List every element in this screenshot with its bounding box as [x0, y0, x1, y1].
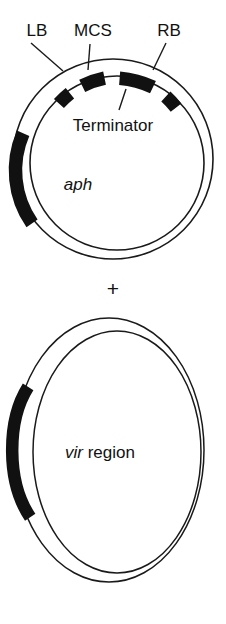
- leader-line-lb: [31, 43, 63, 71]
- segment-aph: [15, 133, 32, 223]
- label-mcs: MCS: [74, 21, 112, 40]
- segment-mcs: [82, 78, 104, 86]
- label-vir-italic: vir: [65, 443, 84, 462]
- label-vir-region: vir region: [65, 443, 135, 462]
- segment-rb: [166, 97, 176, 108]
- leader-line-terminator: [119, 89, 126, 110]
- segment-vir-region: [12, 387, 30, 517]
- label-terminator: Terminator: [73, 116, 154, 135]
- label-lb: LB: [27, 21, 48, 40]
- leader-line-mcs: [88, 44, 90, 70]
- segment-terminator: [120, 78, 153, 87]
- segment-lb: [59, 93, 70, 103]
- leader-line-rb: [153, 43, 166, 70]
- binary-plasmid-outer-circle: [13, 59, 213, 259]
- vir-helper-plasmid: vir region: [12, 318, 204, 582]
- figure-canvas: LB MCS RB Terminator aph + vir region: [0, 0, 226, 624]
- plasmid-diagram: LB MCS RB Terminator aph + vir region: [0, 0, 226, 624]
- label-rb: RB: [157, 21, 181, 40]
- label-vir-rest: region: [83, 443, 135, 462]
- label-aph: aph: [64, 175, 92, 194]
- binary-vector-plasmid: LB MCS RB Terminator aph: [13, 21, 213, 259]
- plus-symbol: +: [107, 277, 119, 300]
